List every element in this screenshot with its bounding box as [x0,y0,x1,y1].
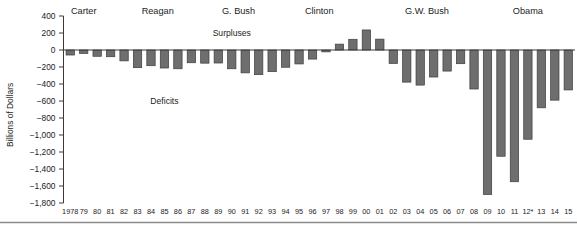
x-tick-label: 97 [322,207,330,216]
bar [429,50,437,77]
y-tick-label: −1,000 [30,130,56,140]
x-tick-label: 96 [308,207,316,216]
bar [268,50,276,72]
president-label: G. Bush [222,6,255,16]
bar [443,50,451,71]
bar [106,50,114,57]
president-label: Reagan [142,6,174,16]
y-tick-label: 400 [42,11,56,21]
bar [470,50,478,89]
y-axis-title: Billions of Dollars [5,83,15,147]
x-tick-label: 83 [133,207,141,216]
x-tick-label: 91 [241,207,249,216]
bar [80,50,88,53]
x-tick-label: 08 [470,207,478,216]
x-tick-label: 82 [120,207,128,216]
bar [228,50,236,69]
bar [335,44,343,50]
bar [187,50,195,63]
bar [510,50,518,182]
x-tick-label: 98 [335,207,343,216]
chart-annotation: Deficits [150,96,178,106]
y-tick-label: −1,400 [30,164,56,174]
y-tick-label: −1,600 [30,181,56,191]
bar [389,50,397,63]
x-tick-label: 85 [160,207,168,216]
bar [483,50,491,195]
x-tick-label: 94 [282,207,290,216]
x-tick-label: 80 [93,207,101,216]
x-tick-label: 81 [107,207,115,216]
bar [133,50,141,68]
y-tick-label: −800 [37,113,56,123]
bar [349,39,357,50]
chart-canvas: Billions of Dollars 4002000−200−400−600−… [0,0,577,229]
x-tick-label: 14 [551,207,559,216]
bar [551,50,559,100]
bar [537,50,545,108]
x-tick-label: 1978 [62,207,78,216]
plot-area [66,30,572,195]
president-label: Obama [513,6,544,16]
y-axis-title-group: Billions of Dollars [5,83,15,147]
bar [376,39,384,50]
bar [66,50,74,55]
bar [214,50,222,63]
x-tick-label: 05 [430,207,438,216]
bar [241,50,249,73]
bar [93,50,101,56]
bar [497,50,505,156]
bar [160,50,168,68]
chart-annotation: Surpluses [213,28,251,38]
y-axis-ticks: 4002000−200−400−600−800−1,000−1,200−1,40… [30,11,64,208]
x-tick-label: 03 [403,207,411,216]
bar [174,50,182,69]
budget-deficit-chart: Billions of Dollars 4002000−200−400−600−… [0,0,577,229]
bar [456,50,464,64]
x-tick-label: 79 [80,207,88,216]
x-tick-label: 07 [457,207,465,216]
x-tick-label: 88 [201,207,209,216]
x-tick-label: 87 [187,207,195,216]
bar [564,50,572,90]
x-tick-label: 01 [376,207,384,216]
x-tick-label: 15 [564,207,572,216]
x-tick-label: 11 [511,207,519,216]
x-tick-label: 00 [362,207,370,216]
x-tick-label: 04 [416,207,424,216]
x-tick-label: 86 [174,207,182,216]
president-period-labels: CarterReaganG. BushClintonG.W. BushObama [71,6,544,16]
y-tick-label: −1,200 [30,147,56,157]
x-tick-label: 84 [147,207,155,216]
president-label: Carter [71,6,97,16]
x-tick-label: 10 [497,207,505,216]
x-tick-label: 06 [443,207,451,216]
x-axis-ticks: 1978798081828384858687888990919293949596… [62,207,572,216]
x-tick-label: 93 [268,207,276,216]
x-tick-label: 09 [483,207,491,216]
y-tick-label: −600 [37,96,56,106]
y-tick-label: 0 [51,45,56,55]
x-tick-label: 99 [349,207,357,216]
x-tick-label: 92 [255,207,263,216]
president-label: Clinton [305,6,334,16]
x-tick-label: 95 [295,207,303,216]
bar [147,50,155,66]
bar [255,50,263,75]
bar [201,50,209,63]
y-tick-label: −1,800 [30,198,56,208]
x-tick-label: 02 [389,207,397,216]
bar [120,50,128,61]
bar-series [66,30,572,195]
president-label: G.W. Bush [405,6,449,16]
y-tick-label: 200 [42,28,56,38]
y-tick-label: −400 [37,79,56,89]
bar [281,50,289,67]
y-tick-label: −200 [37,62,56,72]
bar [295,50,303,64]
bar [416,50,424,85]
bar [362,30,370,50]
x-tick-label: 90 [228,207,236,216]
bar [403,50,411,82]
x-tick-label: 13 [537,207,545,216]
